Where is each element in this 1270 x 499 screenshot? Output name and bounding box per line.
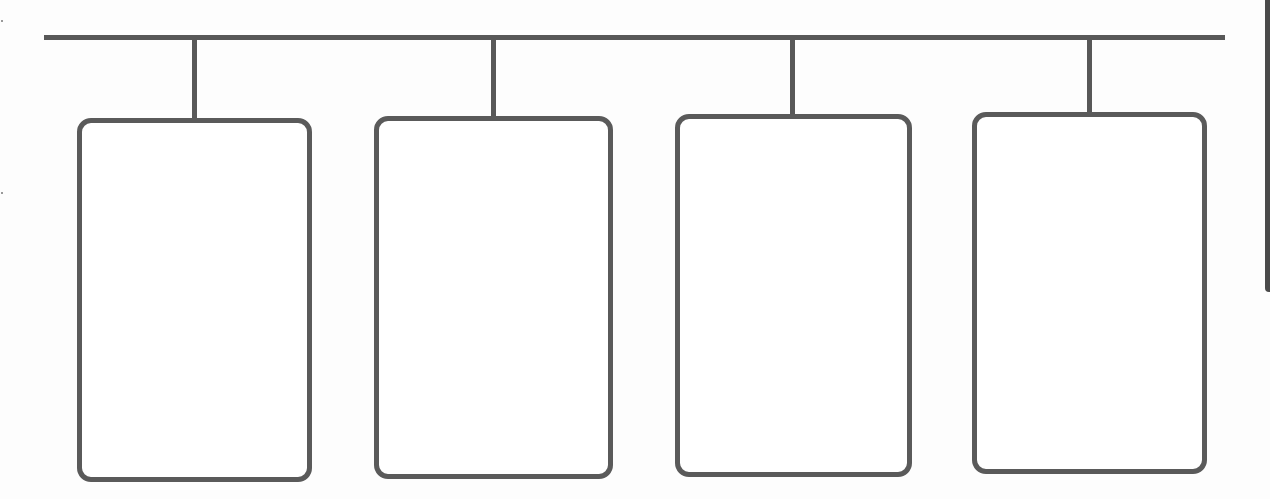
scan-speck (1, 192, 3, 194)
connector-line-2 (491, 39, 496, 118)
connector-line-1 (192, 39, 197, 120)
page-edge-strip (1265, 0, 1270, 292)
node-box-4 (972, 112, 1207, 474)
root-horizontal-bar (44, 35, 1225, 40)
node-box-1 (77, 118, 312, 482)
connector-line-3 (790, 39, 795, 116)
node-box-2 (374, 116, 613, 479)
node-box-3 (675, 114, 912, 477)
diagram-canvas (0, 0, 1270, 499)
scan-speck (1, 20, 3, 22)
connector-line-4 (1087, 39, 1092, 114)
